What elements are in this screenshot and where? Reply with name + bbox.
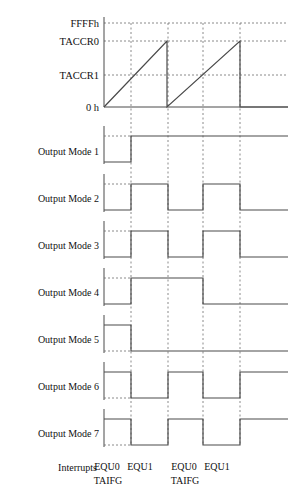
timer-counter-ramp: [104, 41, 288, 107]
interrupt-labels: EQU0EQU1TAIFGEQU0EQU1TAIFG: [94, 461, 230, 486]
interrupts-title: Interrupts: [58, 462, 97, 473]
counter-label-ffffh: FFFFh: [70, 18, 99, 29]
output-mode-1-waveform: [104, 136, 288, 162]
interrupt-label-equ0-3: EQU0: [171, 461, 197, 472]
timer-output-mode-timing-diagram: FFFFhTACCR0TACCR10 h Output Mode 1Output…: [0, 0, 295, 499]
counter-label-taccr0: TACCR0: [60, 36, 99, 47]
counter-label-taccr1: TACCR1: [60, 70, 99, 81]
output-mode-7-label: Output Mode 7: [38, 428, 99, 439]
output-mode-6-waveform: [104, 372, 288, 398]
output-mode-5: Output Mode 5: [38, 315, 288, 353]
output-mode-5-waveform: [104, 325, 288, 351]
counter-axis: [104, 17, 288, 107]
output-mode-6-label: Output Mode 6: [38, 381, 99, 392]
counter-label-zero: 0 h: [86, 102, 100, 113]
output-mode-2-waveform: [104, 184, 288, 210]
output-mode-4-waveform: [104, 278, 288, 304]
output-mode-1-label: Output Mode 1: [38, 146, 99, 157]
output-mode-7: Output Mode 7: [38, 409, 288, 447]
output-mode-rows: Output Mode 1Output Mode 2Output Mode 3O…: [38, 126, 288, 447]
output-mode-3-waveform: [104, 231, 288, 257]
interrupt-label-taifg-5: TAIFG: [171, 475, 200, 486]
output-mode-4-label: Output Mode 4: [38, 287, 99, 298]
counter-ramp-line: [104, 41, 288, 107]
output-mode-3-label: Output Mode 3: [38, 240, 99, 251]
output-mode-3: Output Mode 3: [38, 221, 288, 259]
interrupt-label-taifg-2: TAIFG: [94, 475, 123, 486]
output-mode-6: Output Mode 6: [38, 362, 288, 400]
output-mode-2: Output Mode 2: [38, 174, 288, 212]
output-mode-4: Output Mode 4: [38, 268, 288, 306]
output-mode-5-label: Output Mode 5: [38, 334, 99, 345]
interrupt-label-equ1-4: EQU1: [204, 461, 230, 472]
output-mode-1: Output Mode 1: [38, 126, 288, 164]
output-mode-2-label: Output Mode 2: [38, 193, 99, 204]
counter-axis-labels: FFFFhTACCR0TACCR10 h: [60, 18, 100, 113]
interrupt-label-equ1-1: EQU1: [127, 461, 153, 472]
output-mode-7-waveform: [104, 419, 288, 445]
interrupt-label-equ0-0: EQU0: [94, 461, 120, 472]
